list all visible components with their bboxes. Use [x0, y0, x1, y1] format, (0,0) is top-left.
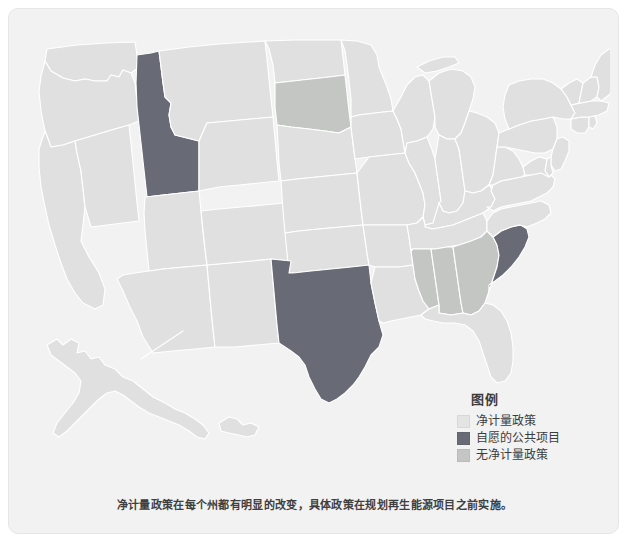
- legend-title: 图例: [471, 389, 607, 408]
- map-legend: 图例 净计量政策 自愿的公共项目 无净计量政策: [457, 389, 607, 465]
- legend-item-net-metering[interactable]: 净计量政策: [457, 414, 607, 428]
- state-NH: [579, 77, 599, 103]
- legend-label-net-metering: 净计量政策: [476, 414, 536, 428]
- state-AR: [363, 225, 413, 267]
- state-KS: [281, 173, 363, 233]
- map-caption: 净计量政策在每个州都有明显的改变，具体政策在规划再生能源项目之前实施。: [9, 496, 619, 512]
- state-UT: [144, 191, 207, 271]
- state-CO: [201, 203, 291, 265]
- state-NM: [207, 259, 279, 347]
- state-AK: [47, 339, 259, 439]
- state-FL: [421, 303, 513, 383]
- legend-label-no-net-metering: 无净计量政策: [476, 448, 548, 462]
- state-OK: [285, 225, 369, 273]
- map-card: 图例 净计量政策 自愿的公共项目 无净计量政策 净计量政策在每个州都有明显的改变…: [8, 8, 619, 534]
- legend-swatch-voluntary-utility-program: [457, 432, 470, 445]
- state-WY: [199, 117, 279, 191]
- legend-swatch-no-net-metering: [457, 449, 470, 462]
- legend-item-voluntary-utility-program[interactable]: 自愿的公共项目: [457, 431, 607, 445]
- state-NE: [277, 125, 357, 181]
- state-AZ: [117, 265, 215, 353]
- legend-label-voluntary-utility-program: 自愿的公共项目: [476, 431, 560, 445]
- legend-swatch-net-metering: [457, 415, 470, 428]
- state-RI: [589, 116, 597, 129]
- state-TX: [271, 259, 383, 403]
- state-SD: [275, 75, 351, 133]
- legend-item-no-net-metering[interactable]: 无净计量政策: [457, 448, 607, 462]
- state-CT: [571, 117, 589, 133]
- state-MD: [523, 157, 549, 177]
